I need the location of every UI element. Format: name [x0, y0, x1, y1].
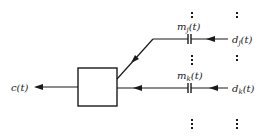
- modulator-k-label: mk(t): [177, 70, 203, 83]
- input-k-arrow-icon: [209, 85, 218, 91]
- output-label: c(t): [11, 82, 29, 93]
- block-diagram: c(t) mj(t) dj(t) mk(t) dk(t): [0, 0, 262, 137]
- input-k-arrow-left-icon: [133, 85, 142, 91]
- source-k-label: dk(t): [232, 83, 255, 96]
- input-j-arrow-icon: [206, 36, 215, 42]
- system-block: [78, 68, 117, 106]
- modulator-j-label: mj(t): [177, 21, 201, 34]
- source-j-label: dj(t): [232, 34, 252, 47]
- output-arrow-icon: [34, 84, 43, 90]
